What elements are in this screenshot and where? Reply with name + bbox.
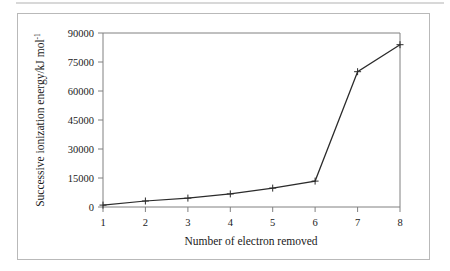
- figure-outer-border: [17, 13, 430, 260]
- page-top-rule: [16, 2, 444, 4]
- figure-page: 0 15000 30000 45000 60000 75000 90000 1 …: [0, 0, 450, 271]
